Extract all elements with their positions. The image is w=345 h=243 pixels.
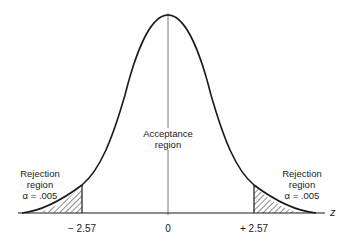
- acceptance-line2: region: [138, 139, 198, 150]
- z-axis-label: z: [330, 206, 336, 218]
- right-rejection-line2: region: [272, 179, 332, 190]
- normal-curve-diagram: [0, 0, 345, 243]
- tick-minus-2-57: − 2.57: [60, 223, 104, 234]
- left-rejection-line1: Rejection: [10, 168, 70, 179]
- left-rejection-line2: region: [10, 179, 70, 190]
- right-rejection-label: Rejection region α = .005: [272, 168, 332, 201]
- acceptance-line1: Acceptance: [138, 128, 198, 139]
- right-rejection-line1: Rejection: [272, 168, 332, 179]
- left-rejection-label: Rejection region α = .005: [10, 168, 70, 201]
- tick-plus-2-57: + 2.57: [232, 223, 276, 234]
- tick-zero: 0: [158, 223, 178, 234]
- right-rejection-alpha: α = .005: [272, 190, 332, 201]
- acceptance-region-label: Acceptance region: [138, 128, 198, 150]
- left-rejection-alpha: α = .005: [10, 190, 70, 201]
